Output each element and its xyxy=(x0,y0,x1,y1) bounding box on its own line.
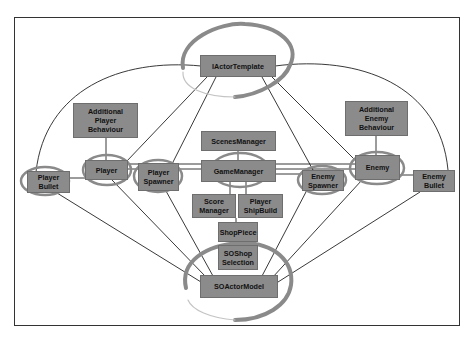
node-additional-player-behaviour[interactable]: Additional Player Behaviour xyxy=(73,103,138,138)
node-enemy-bullet[interactable]: Enemy Bullet xyxy=(413,170,455,192)
node-soshop-selection[interactable]: SOShop Selection xyxy=(218,245,258,270)
diagram-canvas: IActorTemplate Additional Player Behavio… xyxy=(0,0,474,341)
edge-iactortemplate-enemy-spawner xyxy=(262,77,313,170)
node-enemy-spawner[interactable]: Enemy Spawner xyxy=(302,170,344,191)
node-iactortemplate[interactable]: IActorTemplate xyxy=(200,55,276,77)
node-soactormodel[interactable]: SOActorModel xyxy=(200,275,278,298)
node-score-manager[interactable]: Score Manager xyxy=(192,194,236,218)
node-gamemanager[interactable]: GameManager xyxy=(201,160,276,182)
node-enemy[interactable]: Enemy xyxy=(355,155,400,180)
node-player-spawner[interactable]: Player Spawner xyxy=(138,163,179,191)
edge-player-bullet-soactormodel xyxy=(57,193,201,282)
node-shoppiece[interactable]: ShopPiece xyxy=(218,222,258,242)
node-scenesmanager[interactable]: ScenesManager xyxy=(201,131,276,151)
node-additional-enemy-behaviour[interactable]: Additional Enemy Behaviour xyxy=(345,101,408,136)
node-player-shipbuild[interactable]: Player ShipBuild xyxy=(238,194,283,218)
node-player[interactable]: Player xyxy=(85,160,128,180)
edge-iactortemplate-player-spawner xyxy=(170,77,216,168)
node-player-bullet[interactable]: Player Bullet xyxy=(27,171,70,193)
